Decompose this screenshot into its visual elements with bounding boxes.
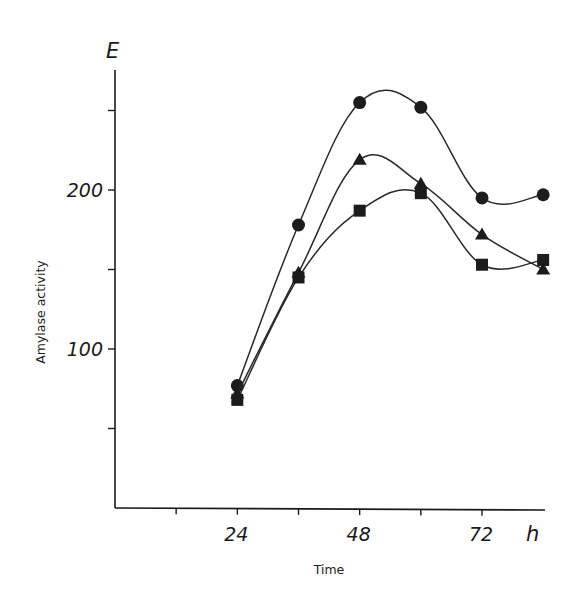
series-square — [231, 187, 549, 406]
square-marker-icon — [293, 271, 305, 283]
triangle-marker-icon — [353, 153, 367, 165]
square-marker-icon — [354, 205, 366, 217]
y-axis-title: Amylase activity — [33, 260, 48, 364]
x-tick-label: 72 — [469, 523, 493, 545]
circle-marker-icon — [537, 188, 550, 201]
y-unit-label: E — [106, 39, 120, 63]
y-ticks: 100200 — [67, 111, 115, 429]
data-series — [230, 90, 550, 406]
series-circle — [231, 90, 550, 392]
square-marker-icon — [537, 254, 549, 266]
figure-caption-cutoff: . . . . . . . . . . . . . . . . . . . . … — [0, 596, 583, 604]
x-tick-label: 48 — [347, 523, 371, 545]
circle-marker-icon — [414, 101, 427, 114]
circle-marker-icon — [353, 96, 366, 109]
x-axis — [115, 508, 545, 510]
circle-marker-icon — [292, 218, 305, 231]
x-tick-label: 24 — [224, 523, 248, 545]
x-axis-title: Time — [313, 562, 345, 577]
x-unit-label: h — [526, 522, 539, 546]
series-line — [237, 155, 543, 394]
x-ticks: 244872 — [176, 508, 493, 545]
circle-marker-icon — [476, 191, 489, 204]
series-line — [237, 190, 543, 400]
series-line — [237, 90, 543, 385]
y-tick-label: 100 — [67, 338, 103, 360]
y-tick-label: 200 — [67, 179, 103, 201]
square-marker-icon — [415, 187, 427, 199]
caption-text: . . . . . . . . . . . . . . . . . . . . … — [0, 596, 583, 604]
triangle-marker-icon — [414, 177, 428, 189]
square-marker-icon — [476, 259, 488, 271]
square-marker-icon — [231, 394, 243, 406]
triangle-marker-icon — [475, 228, 489, 240]
amylase-activity-chart: 100200 244872 E h Time Amylase activity — [0, 0, 583, 604]
